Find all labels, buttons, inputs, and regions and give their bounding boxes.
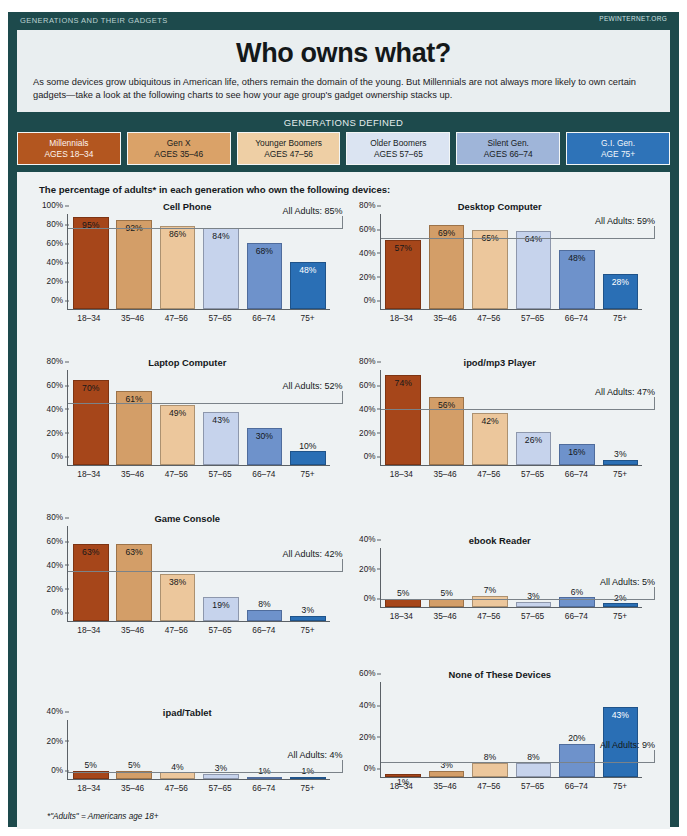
chart-title: Laptop Computer xyxy=(31,357,344,368)
x-axis-tick-label: 75+ xyxy=(598,313,642,323)
bar[interactable]: 70% xyxy=(73,380,109,465)
top-bar: GENERATIONS AND THEIR GADGETS PEWINTERNE… xyxy=(8,12,679,30)
bar[interactable]: 30% xyxy=(247,428,283,466)
plot: 0%20%40%All Adults: 4%5%5%4%3%1%1% xyxy=(67,720,330,780)
bar-value-label: 3% xyxy=(614,449,626,459)
bar-cell: 5% xyxy=(69,720,112,779)
x-axis-tick-label: 66–74 xyxy=(242,783,286,793)
generation-chip-ages: AGES 57–65 xyxy=(374,149,423,160)
plot: 0%20%40%60%80%All Adults: 59%57%69%65%64… xyxy=(380,214,643,310)
bar[interactable]: 8% xyxy=(472,763,508,778)
bar[interactable]: 16% xyxy=(559,444,595,465)
bar[interactable]: 10% xyxy=(290,451,326,465)
bar-value-label: 38% xyxy=(169,577,186,587)
generation-chip-name: G.I. Gen. xyxy=(601,138,635,149)
bar-value-label: 26% xyxy=(525,435,542,445)
bar[interactable]: 92% xyxy=(116,220,152,309)
bar[interactable]: 1% xyxy=(247,777,283,780)
bar-cell: 70% xyxy=(69,370,112,465)
bar[interactable]: 57% xyxy=(385,240,421,310)
plot-area: 0%20%40%60%80%All Adults: 47%74%56%42%26… xyxy=(380,370,643,479)
bar-cell: 63% xyxy=(69,526,112,621)
bar[interactable]: 3% xyxy=(429,771,465,778)
bar[interactable]: 48% xyxy=(559,250,595,309)
bar[interactable]: 63% xyxy=(116,544,152,621)
bar[interactable]: 65% xyxy=(472,230,508,309)
bar[interactable]: 56% xyxy=(429,397,465,466)
bar[interactable]: 42% xyxy=(472,413,508,465)
bar[interactable]: 38% xyxy=(160,574,196,621)
bar[interactable]: 64% xyxy=(516,231,552,309)
x-axis-tick-label: 47–56 xyxy=(467,313,511,323)
bar-value-label: 63% xyxy=(126,547,143,557)
bar[interactable]: 1% xyxy=(385,774,421,778)
bar[interactable]: 43% xyxy=(203,412,239,465)
bar[interactable]: 84% xyxy=(203,228,239,310)
bar[interactable]: 95% xyxy=(73,217,109,309)
y-axis-tick-label: 0% xyxy=(51,296,68,305)
bar[interactable]: 5% xyxy=(385,599,421,608)
bar[interactable]: 74% xyxy=(385,375,421,465)
bar-cell: 56% xyxy=(425,370,468,465)
bar[interactable]: 28% xyxy=(603,274,639,309)
plot-area: 0%20%40%60%All Adults: 9%1%3%8%8%20%43%1… xyxy=(380,682,643,791)
bar-cell: 8% xyxy=(512,682,555,777)
y-axis-tick-label: 80% xyxy=(359,357,380,366)
bar[interactable]: 8% xyxy=(247,610,283,622)
bar-cell: 95% xyxy=(69,214,112,309)
bar[interactable]: 68% xyxy=(247,243,283,310)
all-adults-reference-line xyxy=(381,762,656,763)
plot-area: 0%20%40%60%80%100%All Adults: 85%95%92%8… xyxy=(67,214,330,323)
bar[interactable]: 3% xyxy=(290,616,326,622)
bar-value-label: 48% xyxy=(299,265,316,275)
bar-cell: 74% xyxy=(382,370,425,465)
generation-chip-ages: AGE 75+ xyxy=(601,149,635,160)
bar-cell: 64% xyxy=(512,214,555,309)
bar[interactable]: 63% xyxy=(73,544,109,621)
bar[interactable]: 20% xyxy=(559,744,595,778)
bar[interactable]: 3% xyxy=(203,774,239,780)
bar[interactable]: 86% xyxy=(160,226,196,310)
y-axis-tick-label: 60% xyxy=(47,381,68,390)
bar-value-label: 68% xyxy=(256,246,273,256)
bar[interactable]: 8% xyxy=(516,763,552,778)
y-axis-tick-label: 20% xyxy=(47,584,68,593)
bar[interactable]: 48% xyxy=(290,262,326,310)
bar[interactable]: 3% xyxy=(603,460,639,466)
x-axis-tick-label: 35–46 xyxy=(111,313,155,323)
all-adults-reference-label: All Adults: 42% xyxy=(282,549,342,559)
bar-cell: 26% xyxy=(512,370,555,465)
bar-cell: 61% xyxy=(112,370,155,465)
bar-value-label: 30% xyxy=(256,431,273,441)
plot: 0%20%40%All Adults: 5%5%5%7%3%6%2% xyxy=(380,548,643,608)
y-axis-tick-label: 20% xyxy=(359,428,380,437)
reference-label-connector xyxy=(342,391,343,404)
bar-cell: 16% xyxy=(555,370,598,465)
bar[interactable]: 26% xyxy=(516,432,552,465)
x-axis-tick-label: 35–46 xyxy=(423,781,467,791)
bar[interactable]: 49% xyxy=(160,405,196,465)
x-axis-tick-label: 35–46 xyxy=(423,313,467,323)
y-axis-tick-label: 0% xyxy=(364,594,381,603)
x-axis-tick-label: 47–56 xyxy=(155,313,199,323)
bar[interactable]: 3% xyxy=(516,602,552,608)
bar[interactable]: 5% xyxy=(429,599,465,608)
bar[interactable]: 2% xyxy=(603,603,639,607)
x-axis-tick-label: 57–65 xyxy=(198,625,242,635)
generation-chip-name: Silent Gen. xyxy=(488,138,529,149)
bar-series: 63%63%38%19%8%3% xyxy=(69,526,330,621)
bar[interactable]: 19% xyxy=(203,597,239,622)
y-axis-tick-label: 40% xyxy=(47,404,68,413)
panel-lead-text: The percentage of adults* in each genera… xyxy=(39,184,656,195)
all-adults-reference-line xyxy=(381,238,656,239)
bar[interactable]: 1% xyxy=(290,777,326,780)
chart-ebook-reader: ebook Reader0%20%40%All Adults: 5%5%5%7%… xyxy=(344,511,657,667)
bar[interactable]: 7% xyxy=(472,596,508,608)
x-axis-tick-label: 75+ xyxy=(598,469,642,479)
bar-value-label: 48% xyxy=(568,253,585,263)
x-axis: 18–3435–4647–5657–6566–7475+ xyxy=(380,469,643,479)
x-axis-tick-label: 18–34 xyxy=(380,469,424,479)
kicker-text: GENERATIONS AND THEIR GADGETS xyxy=(20,16,168,25)
bar-value-label: 5% xyxy=(397,588,409,598)
reference-label-connector xyxy=(342,216,343,229)
